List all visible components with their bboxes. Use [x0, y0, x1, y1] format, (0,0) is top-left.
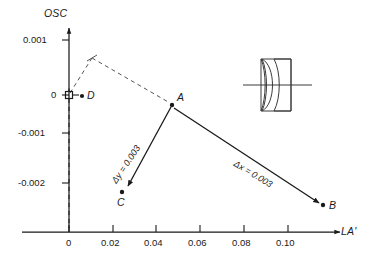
point-d-marker	[80, 94, 84, 98]
point-a-marker	[170, 103, 174, 107]
axis-group	[22, 28, 340, 232]
x-tick-label-5: 0.10	[276, 238, 295, 248]
point-label-c: C	[117, 197, 125, 208]
dashed-construction-path	[70, 58, 170, 103]
doublet-lens-diagram	[243, 59, 312, 111]
x-tick-label-4: 0.08	[232, 238, 251, 248]
segment-a-to-b	[174, 108, 319, 203]
y-tick-label-1: 0	[51, 90, 56, 100]
x-tick-label-1: 0.02	[101, 238, 120, 248]
y-tick-label-2: -0.001	[18, 128, 45, 138]
point-label-d: D	[87, 90, 95, 101]
dashed-vertex-tick	[87, 55, 97, 61]
point-c-marker	[120, 190, 124, 194]
point-b-marker	[321, 203, 325, 207]
y-tick-label-3: -0.002	[18, 178, 45, 188]
dashed-vertex-to-a	[92, 58, 170, 103]
x-tick-label-3: 0.06	[188, 238, 207, 248]
x-axis-title: LA'	[341, 226, 356, 237]
point-label-a: A	[177, 92, 184, 103]
x-tick-label-0: 0	[66, 238, 71, 248]
point-label-b: B	[329, 200, 336, 211]
y-tick-label-0: 0.001	[23, 35, 47, 45]
y-tick-marks	[62, 40, 69, 183]
dashed-origin-to-vertex	[70, 58, 92, 93]
osc-la-plot	[0, 0, 371, 257]
y-axis-title: OSC	[44, 8, 67, 19]
x-tick-label-2: 0.04	[144, 238, 163, 248]
x-tick-marks	[69, 225, 288, 232]
